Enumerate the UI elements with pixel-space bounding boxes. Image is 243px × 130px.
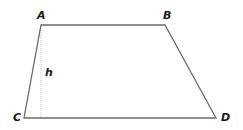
vertex-label-a: A <box>36 9 46 22</box>
vertex-label-c: C <box>13 111 21 124</box>
height-label: h <box>45 66 53 79</box>
trapezoid-diagram: A B C D h <box>0 0 243 130</box>
vertex-label-d: D <box>221 111 230 124</box>
vertex-label-b: B <box>163 9 171 22</box>
